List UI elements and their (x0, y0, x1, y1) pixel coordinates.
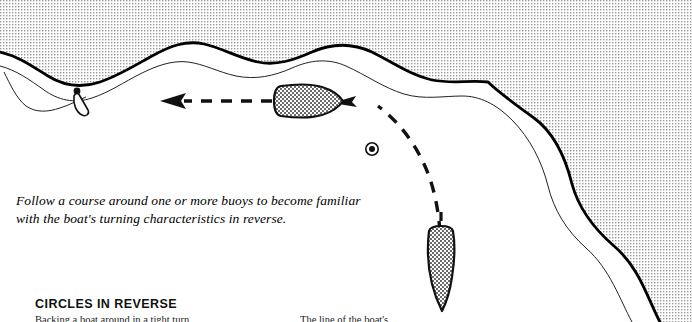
diagram-canvas (0, 0, 692, 322)
caption-line-2: with the boat's turning characteristics … (16, 210, 376, 228)
land-area (0, 0, 692, 322)
figure-caption: Follow a course around one or more buoys… (16, 192, 376, 228)
boat-reversing-vertical (428, 226, 454, 311)
section-heading: CIRCLES IN REVERSE (35, 297, 177, 311)
body-column-left: Backing a boat around in a tight turn (35, 314, 285, 322)
buoy-marker (366, 143, 378, 155)
dock-pier (74, 88, 89, 116)
boat-reversing-horizontal (274, 85, 343, 118)
caption-line-1: Follow a course around one or more buoys… (16, 192, 376, 210)
body-column-right: The line of the boat's (300, 314, 560, 322)
figure-page: Follow a course around one or more buoys… (0, 0, 692, 322)
direction-arrow-left (160, 93, 272, 109)
reverse-track-curve (378, 106, 440, 232)
